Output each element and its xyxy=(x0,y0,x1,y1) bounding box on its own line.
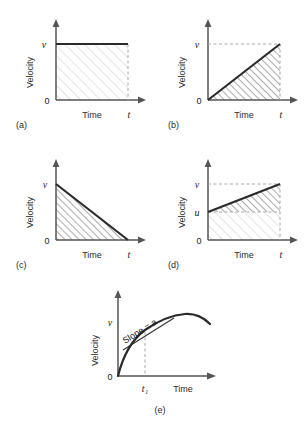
y-axis-arrow-e xyxy=(115,290,122,298)
origin-label-a: 0 xyxy=(44,96,49,106)
shaded-area-a xyxy=(56,44,128,100)
y-axis-arrow-b xyxy=(205,19,212,27)
panel-caption-e: (e) xyxy=(155,405,166,415)
panel-d: Velocity v u 0 Time t (d) xyxy=(152,140,304,280)
x-axis-label-a: Time xyxy=(82,110,102,120)
x-axis-label-e: Time xyxy=(173,384,193,394)
y-axis-label-d: Velocity xyxy=(177,196,187,228)
y-tick-label-e: v xyxy=(108,317,113,328)
panel-b: Velocity v 0 Time t (b) xyxy=(152,0,304,140)
y-axis-label-a: Velocity xyxy=(25,56,35,88)
origin-label-b: 0 xyxy=(196,96,201,106)
y-tick-label-c: v xyxy=(43,179,48,190)
x-axis-arrow-d xyxy=(290,237,298,244)
x-tick-label-e: t₁ xyxy=(142,383,148,394)
y-tick-label-a: v xyxy=(42,39,47,50)
origin-label-e: 0 xyxy=(107,372,112,382)
panel-caption-b: (b) xyxy=(168,120,179,130)
x-tick-label-b: t xyxy=(280,109,283,120)
x-axis-label-c: Time xyxy=(82,250,102,260)
y-tick-label-u-d: u xyxy=(195,207,200,218)
x-axis-arrow-a xyxy=(138,97,146,104)
x-axis-arrow-c xyxy=(138,237,146,244)
x-axis-arrow-b xyxy=(290,97,298,104)
y-axis-arrow-a xyxy=(53,19,60,27)
x-axis-arrow-e xyxy=(207,372,216,379)
panel-caption-c: (c) xyxy=(16,260,27,270)
y-tick-label-b: v xyxy=(195,39,200,50)
y-axis-arrow-c xyxy=(53,159,60,167)
panel-caption-d: (d) xyxy=(168,260,179,270)
velocity-time-figure: Velocity v 0 Time t (a) Velo xyxy=(0,0,304,422)
panel-e: Slope = a Velocity v 0 t₁ Time (e) xyxy=(40,280,264,422)
origin-label-d: 0 xyxy=(196,236,201,246)
y-axis-arrow-d xyxy=(205,159,212,167)
y-tick-label-v-d: v xyxy=(195,179,200,190)
x-tick-label-a: t xyxy=(128,109,131,120)
x-tick-label-d: t xyxy=(280,249,283,260)
x-axis-label-b: Time xyxy=(234,110,254,120)
origin-label-c: 0 xyxy=(44,236,49,246)
panel-c: Velocity v 0 Time t (c) xyxy=(0,140,152,280)
y-axis-label-c: Velocity xyxy=(25,196,35,228)
velocity-curve-e xyxy=(118,314,210,376)
x-tick-label-c: t xyxy=(128,249,131,260)
panel-a: Velocity v 0 Time t (a) xyxy=(0,0,152,140)
y-axis-label-e: Velocity xyxy=(90,334,100,366)
shaded-area-d-lower xyxy=(208,212,280,240)
y-axis-label-b: Velocity xyxy=(177,56,187,88)
panel-caption-a: (a) xyxy=(16,120,27,130)
x-axis-label-d: Time xyxy=(234,250,254,260)
